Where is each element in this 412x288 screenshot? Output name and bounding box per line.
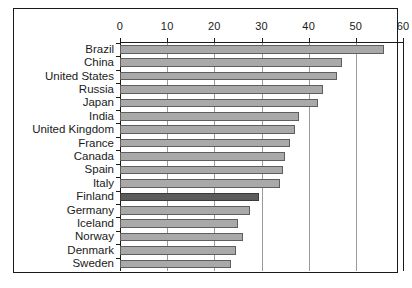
x-tick-label-60: 60 — [397, 20, 410, 32]
category-label-japan: Japan — [0, 96, 114, 108]
bar-row — [120, 191, 403, 204]
category-label-india: India — [0, 110, 114, 122]
y-tick-mark — [116, 231, 120, 232]
x-tick-label-50: 50 — [350, 20, 363, 32]
figure-frame: BrazilChinaUnited StatesRussiaJapanIndia… — [13, 8, 398, 273]
gridline-60 — [403, 43, 404, 271]
y-tick-mark — [116, 137, 120, 138]
bar-row — [120, 137, 403, 150]
bar-row — [120, 244, 403, 257]
y-tick-mark — [116, 244, 120, 245]
y-tick-mark — [116, 164, 120, 165]
bar-canada[interactable] — [120, 152, 285, 161]
bar-row — [120, 110, 403, 123]
category-label-china: China — [0, 56, 114, 68]
bar-row — [120, 258, 403, 271]
category-label-italy: Italy — [0, 177, 114, 189]
category-label-united-kingdom: United Kingdom — [0, 123, 114, 135]
bar-row — [120, 83, 403, 96]
y-tick-mark — [116, 110, 120, 111]
y-tick-mark — [116, 97, 120, 98]
category-label-norway: Norway — [0, 230, 114, 242]
category-label-france: France — [0, 137, 114, 149]
y-tick-mark — [116, 217, 120, 218]
bar-row — [120, 231, 403, 244]
bar-united-states[interactable] — [120, 72, 337, 81]
bar-row — [120, 70, 403, 83]
bar-france[interactable] — [120, 139, 290, 148]
bar-japan[interactable] — [120, 99, 318, 108]
category-label-germany: Germany — [0, 204, 114, 216]
category-label-brazil: Brazil — [0, 43, 114, 55]
y-tick-mark — [116, 123, 120, 124]
bar-india[interactable] — [120, 112, 299, 121]
category-label-finland: Finland — [0, 190, 114, 202]
bar-row — [120, 204, 403, 217]
chart-container: BrazilChinaUnited StatesRussiaJapanIndia… — [0, 0, 412, 288]
category-label-united-states: United States — [0, 70, 114, 82]
bar-row — [120, 177, 403, 190]
bar-norway[interactable] — [120, 233, 243, 242]
bar-sweden[interactable] — [120, 260, 231, 269]
plot-area: 0102030405060 — [120, 43, 403, 271]
y-tick-mark — [116, 204, 120, 205]
x-tick-mark-60 — [403, 38, 404, 43]
bar-denmark[interactable] — [120, 246, 236, 255]
bar-united-kingdom[interactable] — [120, 125, 295, 134]
y-tick-mark — [116, 56, 120, 57]
bar-row — [120, 123, 403, 136]
category-label-canada: Canada — [0, 150, 114, 162]
category-label-iceland: Iceland — [0, 217, 114, 229]
category-label-russia: Russia — [0, 83, 114, 95]
x-tick-label-40: 40 — [302, 20, 315, 32]
bar-row — [120, 97, 403, 110]
category-label-spain: Spain — [0, 163, 114, 175]
bar-row — [120, 150, 403, 163]
y-tick-mark — [116, 258, 120, 259]
bar-row — [120, 164, 403, 177]
x-tick-label-0: 0 — [117, 20, 123, 32]
bar-row — [120, 43, 403, 56]
y-tick-mark — [116, 43, 120, 44]
category-label-sweden: Sweden — [0, 257, 114, 269]
category-label-denmark: Denmark — [0, 244, 114, 256]
bar-brazil[interactable] — [120, 45, 384, 54]
bar-iceland[interactable] — [120, 219, 238, 228]
bar-china[interactable] — [120, 58, 342, 67]
y-tick-mark — [116, 83, 120, 84]
bar-russia[interactable] — [120, 85, 323, 94]
y-tick-mark — [116, 177, 120, 178]
bar-row — [120, 217, 403, 230]
x-tick-label-30: 30 — [255, 20, 268, 32]
y-tick-mark — [116, 150, 120, 151]
bar-italy[interactable] — [120, 179, 280, 188]
y-tick-mark — [116, 70, 120, 71]
x-tick-label-10: 10 — [161, 20, 174, 32]
bar-row — [120, 56, 403, 69]
bar-spain[interactable] — [120, 166, 283, 175]
x-tick-label-20: 20 — [208, 20, 221, 32]
category-label-column: BrazilChinaUnited StatesRussiaJapanIndia… — [14, 43, 120, 271]
bar-finland[interactable] — [120, 193, 259, 202]
y-tick-mark — [116, 191, 120, 192]
bar-germany[interactable] — [120, 206, 250, 215]
